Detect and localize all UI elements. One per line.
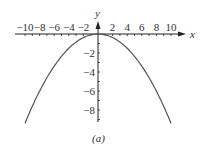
x-tick-label: 2 bbox=[110, 21, 116, 33]
figure-caption: (a) bbox=[92, 132, 105, 145]
x-tick-label: 4 bbox=[124, 21, 130, 33]
y-tick-label: −6 bbox=[83, 85, 95, 97]
y-tick-label: −8 bbox=[83, 104, 95, 116]
y-axis-label: y bbox=[94, 7, 100, 19]
x-tick-label: −10 bbox=[16, 21, 34, 33]
x-tick-label: 8 bbox=[154, 21, 160, 33]
x-tick-label: −2 bbox=[78, 21, 90, 33]
x-tick-label: −8 bbox=[34, 21, 46, 33]
x-tick-label: −4 bbox=[63, 21, 75, 33]
x-tick-label: 10 bbox=[166, 21, 178, 33]
y-tick-label: −4 bbox=[83, 66, 95, 78]
x-tick-label: 6 bbox=[139, 21, 145, 33]
x-tick-label: −6 bbox=[48, 21, 60, 33]
x-axis-label: x bbox=[189, 28, 195, 40]
y-tick-label: −2 bbox=[83, 47, 95, 59]
axes: −10−8−6−4−2246810−2−4−6−8 bbox=[15, 21, 186, 122]
parabola-chart: −10−8−6−4−2246810−2−4−6−8 x y (a) bbox=[0, 0, 204, 153]
